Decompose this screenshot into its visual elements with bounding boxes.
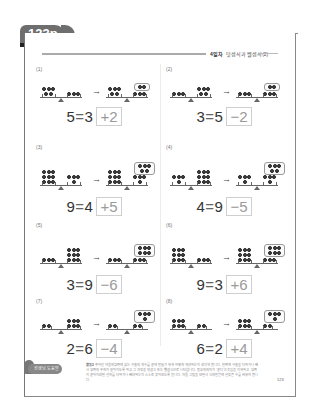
marble-icon <box>243 180 247 184</box>
teacher-tip-label: 선생님 도움말 <box>34 366 59 371</box>
marble-icon <box>140 169 144 173</box>
marble-icon <box>113 175 117 179</box>
balance-scale <box>168 164 214 194</box>
scale-pan <box>67 94 68 98</box>
marble-icon <box>172 175 176 179</box>
marble-group <box>107 257 122 262</box>
marble-icon <box>275 169 279 173</box>
teacher-note-text: 주어진 저울의 양쪽에 있는 구슬의 개수를 같게 만들기 위해 어떻게 해야 … <box>86 363 258 382</box>
marble-icon <box>272 175 276 179</box>
equation-lhs: 2 <box>66 340 75 357</box>
scale-pan <box>42 326 43 330</box>
balance-scene: → <box>168 76 284 106</box>
marble-icon <box>202 170 206 174</box>
scale-pan <box>263 326 264 330</box>
marble-icon <box>238 253 242 257</box>
marble-icon <box>147 251 151 255</box>
scale-pan <box>133 182 134 186</box>
marble-icon <box>277 164 281 168</box>
problem-1: (1)→5=3+2 <box>30 62 158 138</box>
marble-icon <box>138 85 142 89</box>
equation-rhs: 4 <box>85 198 94 215</box>
marble-icon <box>44 92 48 96</box>
marble-group <box>237 175 252 184</box>
marble-icon <box>272 85 276 89</box>
marble-icon <box>243 319 247 323</box>
marble-icon <box>117 175 121 179</box>
marble-icon <box>204 92 208 96</box>
balance-scale <box>104 308 150 338</box>
marble-icon <box>197 87 201 91</box>
scale-pivot-icon <box>124 98 130 102</box>
scale-pan <box>108 260 109 264</box>
marble-icon <box>147 312 151 316</box>
marble-icon <box>143 251 147 255</box>
marble-icon <box>145 169 149 173</box>
balance-scale <box>38 308 84 338</box>
answer-box[interactable]: +5 <box>96 197 121 216</box>
marble-icon <box>47 258 51 262</box>
marble-icon <box>206 170 210 174</box>
marble-icon <box>117 170 121 174</box>
equation-rhs: 5 <box>215 108 224 125</box>
balance-scale <box>104 164 150 194</box>
equals-sign: = <box>75 198 84 215</box>
marble-icon <box>72 248 76 252</box>
marble-icon <box>197 170 201 174</box>
marble-group <box>107 170 122 184</box>
scale-pan <box>55 260 56 264</box>
marble-icon <box>108 170 112 174</box>
answer-box[interactable]: −4 <box>96 339 121 358</box>
scale-pan <box>276 182 277 186</box>
changed-marbles-bubble <box>134 162 155 175</box>
scale-pan <box>210 182 211 186</box>
answer-box[interactable]: −6 <box>96 275 121 294</box>
answer-box[interactable]: +4 <box>226 339 251 358</box>
answer-box[interactable]: −2 <box>226 107 251 126</box>
answer-box[interactable]: −5 <box>226 197 251 216</box>
balance-scale <box>234 76 280 106</box>
marble-icon <box>138 175 142 179</box>
scale-pan <box>142 326 143 330</box>
marble-icon <box>47 180 51 184</box>
marble-icon <box>181 253 185 257</box>
scale-pan <box>80 94 81 98</box>
scale-pivot-icon <box>58 264 64 268</box>
balance-scale <box>38 164 84 194</box>
scale-pan <box>263 260 264 264</box>
marble-icon <box>243 248 247 252</box>
marble-icon <box>238 175 242 179</box>
scale-pan <box>146 260 147 264</box>
marble-icon <box>268 85 272 89</box>
answer-box[interactable]: +2 <box>96 107 121 126</box>
scale-pan <box>210 94 211 98</box>
scale-pan <box>55 182 56 186</box>
marble-group <box>171 319 186 328</box>
marble-icon <box>273 317 277 321</box>
balance-scene: → <box>168 242 284 272</box>
equals-sign: = <box>75 340 84 357</box>
header-bar <box>42 53 206 55</box>
scale-pan <box>197 326 198 330</box>
marble-icon <box>143 246 147 250</box>
marble-group <box>237 248 252 262</box>
marble-icon <box>268 92 272 96</box>
marble-icon <box>247 175 251 179</box>
answer-box[interactable]: +6 <box>226 275 251 294</box>
marble-icon <box>181 319 185 323</box>
marble-group <box>196 257 211 262</box>
scale-pivot-icon <box>58 98 64 102</box>
scale-pivot-icon <box>188 186 194 190</box>
scale-pivot-icon <box>254 330 260 334</box>
scale-pan <box>276 260 277 264</box>
balance-scale <box>38 76 84 106</box>
balance-scale <box>234 164 280 194</box>
scale-pivot-icon <box>254 98 260 102</box>
marble-icon <box>263 175 267 179</box>
arrow-right-icon: → <box>92 252 101 262</box>
marble-icon <box>206 87 210 91</box>
marble-icon <box>113 258 117 262</box>
equation: 3=9−6 <box>30 274 158 294</box>
marble-icon <box>172 319 176 323</box>
marble-icon <box>67 253 71 257</box>
